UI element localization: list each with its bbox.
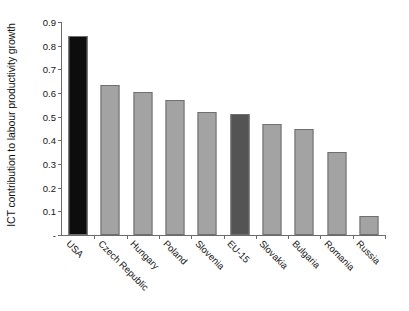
x-axis-label: Poland bbox=[161, 238, 190, 267]
plot-area: -0.10.20.30.40.50.60.70.80.9 bbox=[62, 22, 385, 235]
bar bbox=[295, 129, 314, 236]
bar-chart-figure: ICT contribution to labour productivity … bbox=[0, 0, 409, 311]
bar-slot bbox=[288, 22, 320, 235]
y-axis-title-text: ICT contribution to labour productivity … bbox=[5, 23, 17, 227]
x-axis-label: Russia bbox=[355, 238, 383, 266]
bar-slot bbox=[256, 22, 288, 235]
y-axis-tick-label: 0.1 bbox=[43, 206, 56, 217]
y-axis-tick-label: 0.4 bbox=[43, 135, 56, 146]
y-axis-tick-label: - bbox=[53, 230, 56, 241]
y-axis-tick-label: 0.7 bbox=[43, 64, 56, 75]
x-axis-label: Romania bbox=[322, 238, 357, 273]
bar bbox=[359, 216, 378, 235]
bar-slot bbox=[353, 22, 385, 235]
bar-slot bbox=[159, 22, 191, 235]
bar-slot bbox=[224, 22, 256, 235]
y-axis-tick-label: 0.6 bbox=[43, 88, 56, 99]
y-axis-title: ICT contribution to labour productivity … bbox=[0, 0, 22, 250]
y-axis-tick-label: 0.5 bbox=[43, 111, 56, 122]
x-axis-label: USA bbox=[64, 238, 86, 260]
bar bbox=[230, 114, 249, 235]
y-axis-tick-label: 0.3 bbox=[43, 159, 56, 170]
y-axis-tick-label: 0.2 bbox=[43, 182, 56, 193]
bar-slot bbox=[320, 22, 352, 235]
y-axis-tick-mark bbox=[58, 235, 62, 236]
bar bbox=[198, 112, 217, 235]
x-axis-labels: USACzech RepublicHungaryPolandSloveniaEU… bbox=[62, 238, 385, 311]
y-axis-tick-label: 0.8 bbox=[43, 40, 56, 51]
bar bbox=[69, 36, 88, 235]
bar bbox=[166, 100, 185, 235]
bar bbox=[327, 152, 346, 235]
x-axis-label: EU-15 bbox=[225, 238, 252, 265]
x-axis-label: Bulgaria bbox=[290, 238, 322, 270]
x-axis-label: Hungary bbox=[129, 238, 162, 271]
x-axis-label: Slovenia bbox=[193, 238, 227, 272]
bar-slot bbox=[191, 22, 223, 235]
bar-series bbox=[62, 22, 385, 235]
bar bbox=[133, 92, 152, 235]
x-axis-label: Slovakia bbox=[258, 238, 291, 271]
x-axis-tick-mark bbox=[385, 235, 386, 239]
y-axis-tick-label: 0.9 bbox=[43, 17, 56, 28]
bar-slot bbox=[62, 22, 94, 235]
bar-slot bbox=[94, 22, 126, 235]
bar-slot bbox=[127, 22, 159, 235]
bar bbox=[101, 85, 120, 235]
bar bbox=[262, 124, 281, 235]
